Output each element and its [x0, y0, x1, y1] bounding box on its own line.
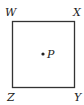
vertex-label-y: Y	[74, 91, 83, 104]
square-diagram: W X Y Z P	[0, 0, 84, 105]
vertex-label-x: X	[72, 6, 82, 19]
point-p-dot	[41, 52, 44, 55]
vertex-label-z: Z	[6, 91, 15, 104]
point-label-p: P	[46, 48, 55, 61]
vertex-label-w: W	[5, 6, 18, 19]
